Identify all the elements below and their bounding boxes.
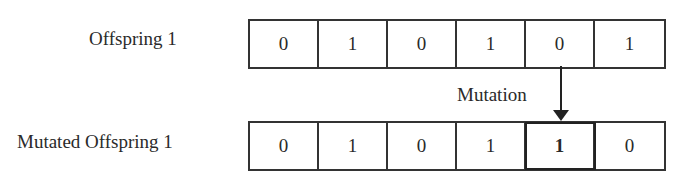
- gene-cell: 0: [595, 123, 664, 169]
- offspring-label: Offspring 1: [89, 28, 177, 50]
- offspring-chromosome: 0 1 0 1 0 1: [248, 19, 666, 69]
- gene-cell: 1: [319, 21, 388, 67]
- mutated-chromosome: 0 1 0 1 1 0: [248, 121, 666, 171]
- mutation-arrow-shaft: [560, 66, 562, 112]
- mutated-gene-cell: 1: [526, 123, 595, 169]
- mutated-offspring-label: Mutated Offspring 1: [17, 131, 173, 153]
- gene-cell: 1: [457, 21, 526, 67]
- gene-cell: 1: [595, 21, 664, 67]
- gene-cell: 1: [319, 123, 388, 169]
- gene-cell: 1: [457, 123, 526, 169]
- gene-cell: 0: [250, 123, 319, 169]
- gene-cell: 0: [250, 21, 319, 67]
- arrow-down-icon: [553, 110, 569, 121]
- gene-cell: 0: [526, 21, 595, 67]
- gene-cell: 0: [388, 21, 457, 67]
- gene-cell: 0: [388, 123, 457, 169]
- mutation-label: Mutation: [457, 84, 527, 106]
